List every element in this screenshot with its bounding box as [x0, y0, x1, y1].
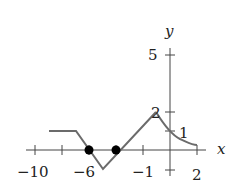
- tick-label-neg1: −1: [132, 163, 154, 181]
- tick-label-neg10: −10: [17, 163, 49, 181]
- tick-label-y1: 1: [179, 124, 189, 142]
- tick-label-neg6: −6: [73, 163, 95, 181]
- x-axis-label: x: [217, 140, 226, 158]
- function-graph: −10 −6 −1 2 5 2 1 x y: [0, 0, 242, 188]
- zero-point-marker: [85, 146, 94, 155]
- y-axis-label: y: [164, 22, 174, 40]
- tick-label-2: 2: [192, 166, 202, 184]
- piecewise-linear-segment: [49, 112, 156, 169]
- zero-point-marker: [112, 146, 121, 155]
- tick-label-y2: 2: [151, 104, 161, 122]
- decay-curve: [156, 112, 197, 145]
- tick-label-y5: 5: [148, 46, 158, 64]
